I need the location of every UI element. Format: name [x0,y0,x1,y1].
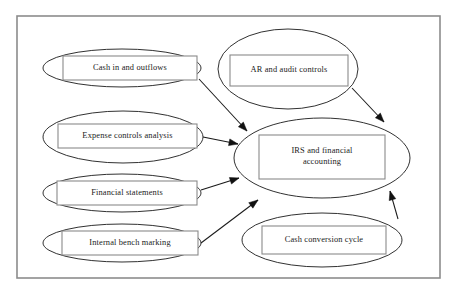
node-label: AR and audit controls [251,65,328,74]
diagram-canvas: Cash in and outflowsAR and audit control… [0,0,456,295]
node-label: Financial statements [91,188,163,197]
diagram-page: Cash in and outflowsAR and audit control… [0,0,456,295]
node-label: IRS and financial [291,146,353,155]
node-cash-in-and-outflows[interactable]: Cash in and outflows [43,49,201,87]
node-label: accounting [303,157,342,166]
node-label: Cash conversion cycle [285,235,364,244]
node-expense-controls-analysis[interactable]: Expense controls analysis [43,111,203,163]
node-cash-conversion-cycle[interactable]: Cash conversion cycle [242,213,402,267]
node-irs-and-financial-accounting[interactable]: IRS and financialaccounting [234,118,410,198]
node-label: Internal bench marking [89,238,171,247]
node-label: Cash in and outflows [93,63,167,72]
node-ar-and-audit-controls[interactable]: AR and audit controls [218,29,358,109]
node-financial-statements[interactable]: Financial statements [43,174,201,212]
node-label: Expense controls analysis [82,131,172,140]
node-internal-bench-marking[interactable]: Internal bench marking [43,224,201,262]
